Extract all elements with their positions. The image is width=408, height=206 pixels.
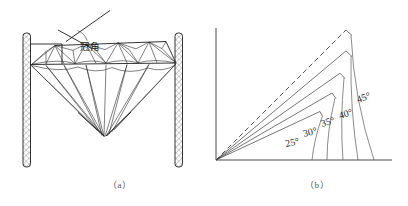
girdle-line [30, 63, 176, 65]
crown-angle-ray [66, 11, 110, 42]
figure-canvas: 冠角 [0, 0, 408, 206]
angle-label-30: 30° [302, 125, 318, 139]
ray-end-ticks [320, 30, 352, 117]
arc-30 [327, 98, 335, 160]
figure-root: 冠角 [0, 0, 408, 206]
caption-a: （a） [108, 178, 132, 191]
ray-40 [216, 51, 346, 160]
angle-label-40: 40° [337, 106, 354, 121]
angle-label-45: 45° [355, 90, 372, 105]
ray-35 [216, 73, 340, 160]
right-post-hatch-cross [175, 33, 183, 167]
pavilion-facets [31, 64, 176, 137]
angle-label-25: 25° [284, 135, 300, 149]
angle-rays [216, 30, 346, 160]
angle-label-35: 35° [320, 114, 336, 128]
crown-facets [32, 42, 176, 65]
left-post-hatch-cross [23, 33, 31, 167]
ray-45-dashed [216, 30, 346, 160]
right-post [175, 33, 183, 167]
crown-angle-label: 冠角 [80, 41, 100, 52]
panel-a-group: 冠角 [23, 11, 183, 168]
panel-b-group: 25° 30° 35° 40° 45° [216, 28, 392, 160]
left-post [23, 33, 31, 167]
arc-40 [351, 56, 358, 160]
caption-b: （b） [305, 178, 329, 191]
girdle-scallop-lower [32, 65, 176, 72]
